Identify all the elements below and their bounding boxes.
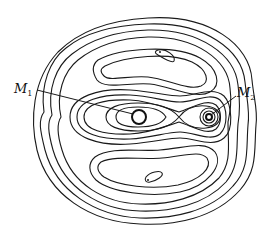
mass-m2-label: M2 — [237, 86, 255, 102]
mass-m1-marker — [132, 110, 146, 124]
mass-m1-label: M1 — [14, 82, 32, 98]
contour-plot — [0, 0, 270, 232]
l5-lobe — [90, 146, 218, 195]
m2-leader-line — [211, 96, 236, 115]
l4-lobe — [93, 49, 216, 94]
contour-diagram: M1 M2 — [0, 0, 270, 232]
